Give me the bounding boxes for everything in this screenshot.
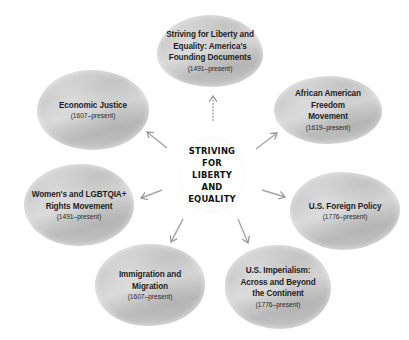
- title-line: Rights Movement: [32, 201, 127, 213]
- diagram-canvas: Striving for Liberty and Equality: Ameri…: [0, 0, 409, 340]
- title-line: Immigration and: [119, 269, 181, 281]
- node-title: Women's and LGBTQIA+ Rights Movement: [32, 189, 127, 212]
- arrow-to-immigration-migration: [171, 219, 183, 242]
- node-immigration-migration: Immigration and Migration (1607–present): [95, 244, 205, 326]
- center-line: AND: [201, 181, 222, 193]
- title-line: Women's and LGBTQIA+: [32, 189, 127, 201]
- node-title: Immigration and Migration: [119, 269, 181, 292]
- node-title: U.S. Imperialism: Across and Beyond the …: [240, 265, 315, 300]
- center-line: EQUALITY: [188, 193, 236, 205]
- node-african-american-freedom: African American Freedom Movement (1619–…: [274, 76, 382, 144]
- title-line: Freedom: [295, 100, 361, 112]
- arrow-to-us-imperialism: [238, 219, 248, 243]
- title-line: Economic Justice: [59, 100, 127, 112]
- center-line: LIBERTY: [192, 169, 232, 181]
- title-line: Equality: America's: [166, 41, 254, 53]
- title-line: African American: [295, 88, 361, 100]
- node-title: African American Freedom Movement: [295, 88, 361, 123]
- arrow-to-african-american-freedom: [256, 133, 277, 149]
- title-line: Founding Documents: [166, 52, 254, 64]
- title-line: Across and Beyond: [240, 277, 315, 289]
- node-dates: (1607–present): [128, 292, 173, 301]
- node-dates: (1776–present): [256, 300, 301, 309]
- arrow-to-economic-justice: [147, 132, 167, 148]
- node-title: Striving for Liberty and Equality: Ameri…: [166, 29, 254, 64]
- title-line: Movement: [295, 111, 361, 123]
- arrow-to-us-foreign-policy: [262, 190, 285, 197]
- center-topic: STRIVING FOR LIBERTY AND EQUALITY: [178, 136, 246, 214]
- center-line: FOR: [202, 157, 222, 169]
- node-founding-documents: Striving for Liberty and Equality: Ameri…: [157, 15, 263, 87]
- node-title: Economic Justice: [59, 100, 127, 112]
- node-us-imperialism: U.S. Imperialism: Across and Beyond the …: [225, 245, 331, 329]
- title-line: U.S. Imperialism:: [240, 265, 315, 277]
- title-line: Striving for Liberty and: [166, 29, 254, 41]
- arrow-to-womens-lgbtqia-rights: [141, 190, 162, 198]
- node-dates: (1491–present): [188, 64, 233, 73]
- node-dates: (1619–present): [306, 123, 351, 132]
- node-dates: (1776–present): [323, 212, 368, 221]
- title-line: the Continent: [240, 288, 315, 300]
- node-dates: (1607–present): [71, 111, 116, 120]
- center-line: STRIVING: [189, 145, 235, 157]
- node-economic-justice: Economic Justice (1607–present): [37, 70, 149, 150]
- node-womens-lgbtqia-rights: Women's and LGBTQIA+ Rights Movement (14…: [24, 164, 134, 246]
- node-dates: (1491–present): [57, 212, 102, 221]
- title-line: Migration: [119, 281, 181, 293]
- node-title: U.S. Foreign Policy: [309, 201, 382, 213]
- title-line: U.S. Foreign Policy: [309, 201, 382, 213]
